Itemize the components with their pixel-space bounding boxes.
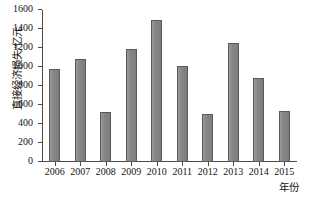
y-tick-label: 400 [18,116,33,129]
x-tick-label: 2011 [170,165,196,178]
bar [49,69,60,162]
y-tick: 400 [38,123,42,124]
y-tick: 200 [38,142,42,143]
x-tick-label: 2007 [68,165,94,178]
y-tick: 1400 [38,28,42,29]
x-axis-title: 年份 [279,181,299,194]
y-tick-label: 1400 [13,21,33,34]
y-tick: 1000 [38,66,42,67]
x-tick-label: 2008 [93,165,119,178]
y-tick: 600 [38,104,42,105]
y-tick: 1200 [38,47,42,48]
x-tick-label: 2010 [144,165,170,178]
y-tick-label: 1200 [13,40,33,53]
bar [126,49,137,162]
x-tick-label: 2014 [246,165,272,178]
bar [100,112,111,162]
y-tick-label: 0 [28,154,33,167]
y-tick-label: 600 [18,97,33,110]
bar [253,78,264,162]
y-tick-label: 800 [18,78,33,91]
bar [279,111,290,162]
x-tick-label: 2013 [221,165,247,178]
y-tick-label: 200 [18,135,33,148]
bar-chart: 直接经济损失/亿元 02004006008001000120014001600 … [0,0,311,203]
y-tick-label: 1600 [13,2,33,15]
bar [151,20,162,162]
y-axis-line [42,10,43,162]
x-tick-label: 2012 [195,165,221,178]
y-tick-label: 1000 [13,59,33,72]
bar [228,43,239,162]
x-tick-label: 2009 [119,165,145,178]
x-axis-labels: 2006200720082009201020112012201320142015 [42,165,297,180]
plot-area: 02004006008001000120014001600 [42,10,297,162]
bar [202,114,213,162]
x-tick-label: 2015 [272,165,298,178]
bar [177,66,188,162]
y-tick: 800 [38,85,42,86]
x-tick-label: 2006 [42,165,68,178]
y-tick: 0 [38,161,42,162]
y-tick: 1600 [38,9,42,10]
bar [75,59,86,162]
